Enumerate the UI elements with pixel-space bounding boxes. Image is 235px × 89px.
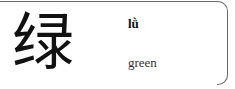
meaning-label: green: [128, 55, 157, 71]
pinyin-label: lǜ: [128, 16, 139, 32]
chinese-character: 绿: [12, 3, 74, 83]
